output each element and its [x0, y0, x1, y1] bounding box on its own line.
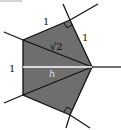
pentagon-diagram: 1 1 √2 1 h: [0, 0, 121, 130]
label-top-right-edge: 1: [82, 32, 88, 43]
extension-line-bottom-right: [70, 115, 90, 128]
label-top-left-edge: 1: [43, 16, 49, 27]
extension-line-bottom-left: [4, 95, 23, 103]
label-diagonal: √2: [50, 41, 63, 52]
label-height: h: [49, 68, 55, 79]
extension-line-top-vertical: [63, 4, 70, 20]
extension-line-top-right: [70, 4, 98, 20]
extension-line-top-left: [4, 32, 23, 40]
extension-line-bottom-vertical: [66, 115, 70, 128]
label-left-edge: 1: [9, 63, 15, 74]
